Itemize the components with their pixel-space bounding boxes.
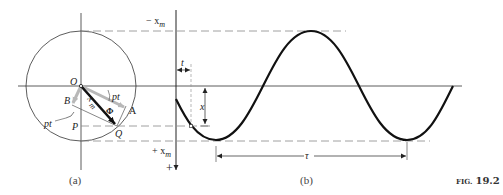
panel-b-caption: (b) [300, 174, 313, 187]
positive-direction-label: + [166, 161, 173, 175]
panel-a: O B A P Q pt pt x m Φ (a) [18, 13, 462, 187]
point-b-label: B [64, 95, 70, 106]
rotating-vector-oq [81, 86, 115, 124]
pt-lower-label: pt [43, 118, 52, 129]
panel-a-caption: (a) [69, 174, 82, 187]
neg-xm-label: − xm [146, 15, 165, 29]
displacement-curve [176, 31, 453, 140]
pt-upper-label: pt [111, 91, 120, 102]
pos-xm-label: + xm [152, 145, 171, 159]
x-label: x [199, 101, 205, 112]
t-point-marker [190, 125, 193, 128]
figure-19-2: O B A P Q pt pt x m Φ (a) − xm + xm + t … [0, 0, 503, 195]
point-a-label: A [129, 105, 137, 116]
point-o-label: O [70, 76, 77, 87]
tau-label: τ [305, 150, 309, 161]
t-label: t [181, 57, 184, 68]
pt-angle-arc [66, 112, 74, 118]
o-to-b-gray-arrow [73, 86, 81, 103]
pt-leader [55, 118, 66, 121]
point-q-label: Q [115, 128, 123, 139]
origin-point [79, 84, 82, 87]
point-p-label: P [71, 121, 78, 132]
panel-b: − xm + xm + t x τ (b) [146, 10, 453, 187]
figure-number: FIG.19.2 [456, 175, 500, 186]
phi-label: Φ [106, 106, 114, 116]
